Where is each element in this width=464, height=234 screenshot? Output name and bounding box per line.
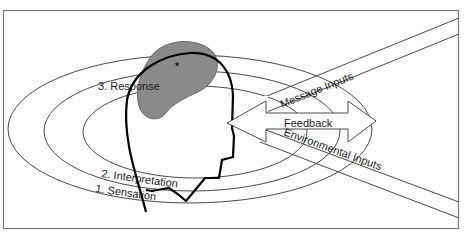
- label-response: 3. Response: [98, 80, 160, 92]
- perception-diagram: * 3. Response 2. Interpretation 1. Sensa…: [0, 0, 464, 234]
- diagram-frame: [4, 11, 459, 229]
- inner-ellipse-response: [83, 86, 307, 178]
- label-environmental-inputs: Environmental Inputs: [282, 126, 384, 173]
- environmental-inputs-band: [260, 130, 459, 218]
- brain-marker: *: [175, 60, 180, 72]
